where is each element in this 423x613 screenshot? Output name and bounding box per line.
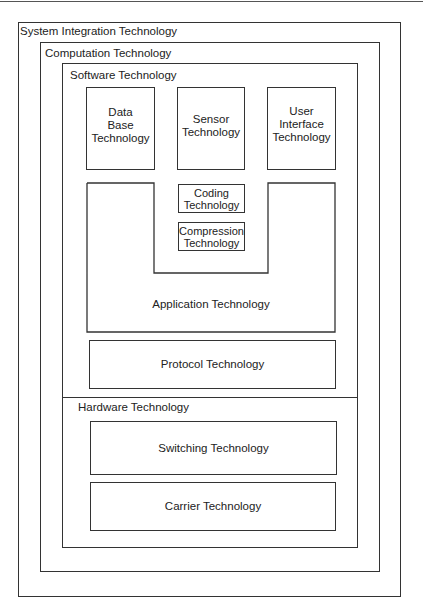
protocol-technology-box: Protocol Technology [89, 340, 336, 389]
compression-technology-box: Compression Technology [178, 222, 245, 251]
application-technology-label-wrap: Application Technology [87, 296, 335, 312]
coding-technology-box: Coding Technology [178, 184, 245, 213]
protocol-technology-label: Protocol Technology [161, 358, 264, 371]
carrier-technology-box: Carrier Technology [90, 482, 336, 531]
carrier-technology-label: Carrier Technology [165, 500, 261, 513]
switching-technology-label: Switching Technology [158, 442, 268, 455]
coding-technology-label: Coding Technology [184, 187, 240, 211]
switching-technology-box: Switching Technology [90, 421, 337, 475]
application-technology-label: Application Technology [152, 298, 269, 311]
compression-technology-label: Compression Technology [179, 225, 244, 249]
hardware-label: Hardware Technology [78, 401, 189, 413]
